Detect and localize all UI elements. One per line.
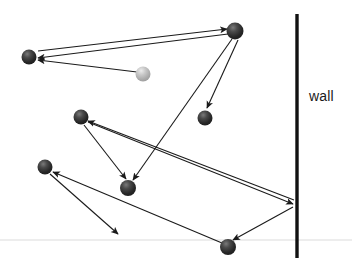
- ball-top-left: [22, 50, 37, 65]
- ball-group: [22, 23, 244, 256]
- trajectory-scene: [0, 0, 352, 263]
- arrow-midright-to-centerlow: [133, 39, 232, 180]
- arrow-wall-to-midleft: [88, 121, 294, 200]
- arrow-bottom-to-lowerleft: [53, 172, 222, 243]
- arrow-topright-to-midright: [207, 40, 238, 108]
- ball-mid-right: [198, 111, 213, 126]
- arrow-topleft-to-topright: [38, 29, 227, 51]
- wall-label: wall: [309, 88, 334, 104]
- arrow-topright-to-topleft: [38, 34, 228, 58]
- ball-lower-left: [38, 160, 53, 175]
- arrow-light-to-topleft: [38, 60, 137, 72]
- arrow-group: [38, 29, 294, 243]
- ball-bottom: [220, 239, 236, 255]
- arrow-lowerleft-down: [50, 174, 118, 234]
- arrow-wall-to-bottom: [233, 207, 293, 240]
- ball-center-low: [120, 180, 136, 196]
- ball-light-mid: [136, 67, 151, 82]
- arrow-midleft-to-wall: [88, 122, 293, 204]
- ball-top-right: [227, 23, 244, 40]
- ball-mid-left: [74, 110, 89, 125]
- diagram-canvas: wall: [0, 0, 352, 263]
